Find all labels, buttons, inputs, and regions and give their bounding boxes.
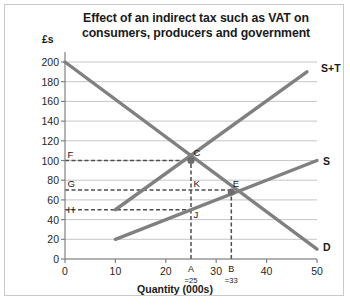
axis-marker-label-b: B: [211, 264, 251, 274]
curve-label-d: D: [323, 241, 331, 253]
y-tick-label-20: 20: [27, 233, 59, 245]
point-label-c: C: [194, 147, 201, 158]
y-tick-label-100: 100: [27, 155, 59, 167]
point-label-e: E: [233, 178, 239, 189]
y-tick-label-140: 140: [27, 115, 59, 127]
point-label-j: J: [194, 209, 199, 220]
point-label-h: H: [68, 204, 75, 215]
x-tick-label-10: 10: [95, 265, 135, 277]
axis-marker-value-b: =33: [211, 276, 251, 285]
axis-marker-value-a: =25: [171, 276, 211, 285]
y-tick-label-60: 60: [27, 194, 59, 206]
y-tick-label-80: 80: [27, 174, 59, 186]
y-tick-label-120: 120: [27, 135, 59, 147]
curve-label-splus-t: S+T: [321, 62, 341, 74]
point-label-g: G: [68, 178, 75, 189]
point-label-k: K: [194, 178, 200, 189]
data-point-e: [228, 188, 235, 195]
axis-marker-label-a: A: [171, 264, 211, 274]
point-label-f: F: [68, 149, 74, 160]
chart-container: Effect of an indirect tax such as VAT on…: [4, 4, 344, 296]
data-point-c: [187, 157, 194, 164]
x-tick-label-0: 0: [45, 265, 85, 277]
y-tick-label-180: 180: [27, 76, 59, 88]
x-tick-label-40: 40: [247, 265, 287, 277]
y-tick-label-160: 160: [27, 95, 59, 107]
y-tick-label-0: 0: [27, 253, 59, 265]
plot-area: 02040608010012014016018020001020304050S+…: [5, 5, 345, 297]
y-tick-label-200: 200: [27, 56, 59, 68]
x-tick-label-50: 50: [297, 265, 337, 277]
y-tick-label-40: 40: [27, 214, 59, 226]
curve-label-s: S: [323, 155, 330, 167]
